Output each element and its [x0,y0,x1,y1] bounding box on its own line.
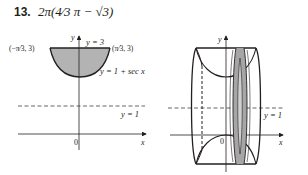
left-point-label: (−π⁄3, 3) [9,44,35,53]
y-axis-label: y [217,35,222,44]
origin-label: 0 [74,138,78,147]
solid-outer-left [192,48,197,164]
top-line-label: y = 3 [85,37,104,47]
dashed-line-label: y = 1 [120,109,139,119]
right-point-label: (π⁄3, 3) [112,44,134,53]
x-axis-label: x [140,138,145,147]
washer-inner-ellipse [238,58,243,154]
origin-label: 0 [220,137,224,146]
curve-label: y = 1 + sec x [99,66,145,76]
y-axis-label: y [70,33,75,42]
right-figure: y y = 1 0 x [168,35,283,172]
x-axis-label: x [278,138,283,147]
dashed-line-label: y = 1 [263,110,282,120]
figures: y y = 3 (−π⁄3, 3) (π⁄3, 3) y = 1 + sec x… [0,0,308,175]
left-figure: y y = 3 (−π⁄3, 3) (π⁄3, 3) y = 1 + sec x… [9,33,146,150]
solid-outer-right [256,48,261,164]
